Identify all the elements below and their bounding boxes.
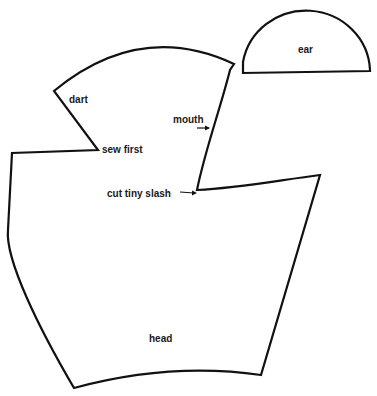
mouth-label: mouth [173, 115, 204, 125]
sew-first-label: sew first [102, 145, 143, 155]
pattern-canvas [0, 0, 377, 396]
ear-piece-outline [243, 11, 370, 73]
cut-tiny-slash-label: cut tiny slash [107, 189, 171, 199]
slash-arrow [180, 192, 194, 193]
ear-label: ear [298, 45, 313, 55]
dart-label: dart [69, 95, 88, 105]
head-label: head [149, 334, 172, 344]
slash-arrowhead-icon [192, 191, 197, 196]
mouth-arrowhead-icon [205, 126, 210, 131]
